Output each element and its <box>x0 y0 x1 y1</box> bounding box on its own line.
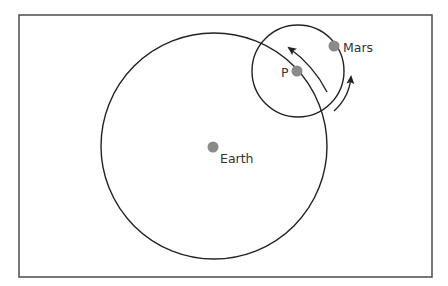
epicycle-diagram: Earth Mars P <box>0 0 448 286</box>
earth-label: Earth <box>220 151 254 166</box>
mars-dot <box>329 41 340 52</box>
earth-dot <box>208 142 219 153</box>
mars-label: Mars <box>343 40 373 55</box>
p-dot <box>292 66 303 77</box>
p-label: P <box>281 65 289 80</box>
